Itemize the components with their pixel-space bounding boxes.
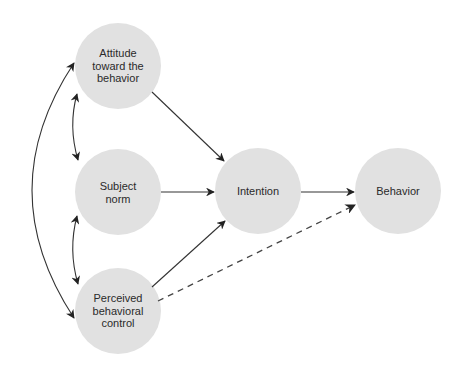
edge-attitude-pbc bbox=[32, 63, 74, 318]
edge-subject-norm-pbc bbox=[73, 216, 78, 284]
label-intention: Intention bbox=[216, 185, 300, 198]
label-line: control bbox=[76, 317, 160, 330]
edge-pbc-intention bbox=[152, 221, 225, 287]
label-line: Attitude bbox=[76, 47, 160, 60]
edge-attitude-intention bbox=[152, 92, 224, 161]
label-perceived-behavioral-control: Perceived behavioral control bbox=[76, 292, 160, 330]
label-line: norm bbox=[76, 192, 160, 205]
label-subject-norm: Subject norm bbox=[76, 180, 160, 205]
label-line: Intention bbox=[216, 185, 300, 198]
label-line: Perceived bbox=[76, 292, 160, 305]
label-attitude: Attitude toward the behavior bbox=[76, 47, 160, 85]
label-line: Behavior bbox=[356, 185, 440, 198]
diagram-canvas bbox=[0, 0, 459, 367]
edge-attitude-subject-norm bbox=[73, 94, 78, 160]
label-line: toward the bbox=[76, 60, 160, 73]
label-behavior: Behavior bbox=[356, 185, 440, 198]
label-line: behavioral bbox=[76, 305, 160, 318]
label-line: behavior bbox=[76, 72, 160, 85]
label-line: Subject bbox=[76, 180, 160, 193]
